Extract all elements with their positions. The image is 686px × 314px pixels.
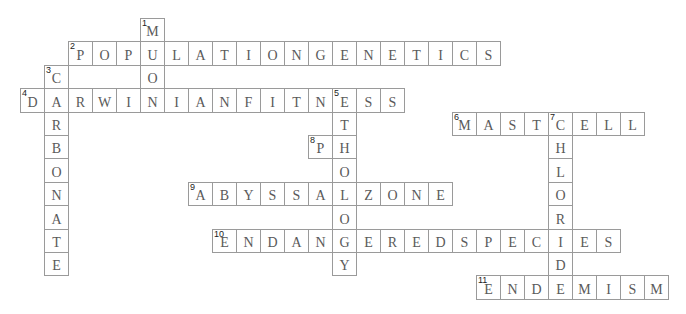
crossword-cell[interactable]: D bbox=[548, 252, 573, 276]
crossword-cell[interactable]: T bbox=[44, 229, 69, 253]
crossword-cell[interactable]: G bbox=[308, 41, 333, 66]
crossword-cell[interactable]: D bbox=[428, 229, 453, 253]
crossword-cell[interactable]: N bbox=[212, 88, 237, 113]
crossword-cell[interactable]: P bbox=[476, 229, 501, 253]
crossword-cell[interactable]: U bbox=[140, 41, 165, 66]
crossword-cell[interactable]: A bbox=[188, 88, 213, 113]
crossword-cell[interactable]: 10E bbox=[212, 229, 237, 253]
crossword-cell[interactable]: T bbox=[212, 41, 237, 66]
crossword-cell[interactable]: W bbox=[92, 88, 117, 113]
crossword-cell[interactable]: B bbox=[212, 182, 237, 206]
crossword-cell[interactable]: L bbox=[620, 112, 645, 136]
crossword-cell[interactable]: A bbox=[476, 112, 501, 136]
crossword-cell[interactable]: S bbox=[620, 275, 645, 300]
crossword-cell[interactable]: 2P bbox=[68, 41, 93, 66]
crossword-cell[interactable]: H bbox=[548, 135, 573, 159]
crossword-cell[interactable]: O bbox=[260, 41, 285, 66]
crossword-cell[interactable]: M bbox=[572, 275, 597, 300]
crossword-cell[interactable]: R bbox=[68, 88, 93, 113]
crossword-cell[interactable]: I bbox=[548, 229, 573, 253]
crossword-cell[interactable]: S bbox=[476, 41, 501, 66]
crossword-cell[interactable]: 6M bbox=[452, 112, 477, 136]
crossword-cell[interactable]: N bbox=[500, 275, 525, 300]
crossword-cell[interactable]: 3C bbox=[44, 65, 69, 89]
crossword-cell[interactable]: N bbox=[236, 229, 261, 253]
crossword-cell[interactable]: O bbox=[92, 41, 117, 66]
crossword-cell[interactable]: B bbox=[44, 135, 69, 159]
crossword-cell[interactable]: I bbox=[260, 88, 285, 113]
crossword-cell[interactable]: S bbox=[380, 88, 405, 113]
crossword-cell[interactable]: S bbox=[260, 182, 285, 206]
crossword-cell[interactable]: 7C bbox=[548, 112, 573, 136]
crossword-cell[interactable]: N bbox=[308, 229, 333, 253]
crossword-cell[interactable]: E bbox=[380, 41, 405, 66]
crossword-cell[interactable]: 9A bbox=[188, 182, 213, 206]
crossword-cell[interactable]: N bbox=[44, 182, 69, 206]
crossword-cell[interactable]: I bbox=[164, 88, 189, 113]
crossword-cell[interactable]: 4D bbox=[20, 88, 45, 113]
crossword-cell[interactable]: L bbox=[548, 158, 573, 183]
crossword-cell[interactable]: S bbox=[284, 182, 309, 206]
crossword-cell[interactable]: S bbox=[356, 88, 381, 113]
crossword-cell[interactable]: T bbox=[404, 41, 429, 66]
crossword-cell[interactable]: I bbox=[116, 88, 141, 113]
crossword-cell[interactable]: T bbox=[524, 112, 549, 136]
crossword-cell[interactable]: L bbox=[332, 182, 357, 206]
crossword-cell[interactable]: N bbox=[140, 88, 165, 113]
crossword-cell[interactable]: N bbox=[356, 41, 381, 66]
crossword-cell[interactable]: 5E bbox=[332, 88, 357, 113]
crossword-cell[interactable]: E bbox=[332, 41, 357, 66]
crossword-cell[interactable]: C bbox=[524, 229, 549, 253]
crossword-cell[interactable]: D bbox=[524, 275, 549, 300]
crossword-cell[interactable]: A bbox=[44, 88, 69, 113]
crossword-cell[interactable]: C bbox=[452, 41, 477, 66]
crossword-cell[interactable]: E bbox=[356, 229, 381, 253]
crossword-cell[interactable]: G bbox=[332, 229, 357, 253]
crossword-cell[interactable]: I bbox=[236, 41, 261, 66]
crossword-cell[interactable]: 8P bbox=[308, 135, 333, 159]
crossword-cell[interactable]: N bbox=[404, 182, 429, 206]
crossword-cell[interactable]: R bbox=[380, 229, 405, 253]
crossword-cell[interactable]: A bbox=[188, 41, 213, 66]
cell-letter: U bbox=[141, 49, 164, 63]
crossword-cell[interactable]: L bbox=[164, 41, 189, 66]
crossword-cell[interactable]: F bbox=[236, 88, 261, 113]
crossword-cell[interactable]: T bbox=[332, 112, 357, 136]
crossword-cell[interactable]: O bbox=[140, 65, 165, 89]
crossword-cell[interactable]: E bbox=[404, 229, 429, 253]
crossword-cell[interactable]: M bbox=[644, 275, 669, 300]
crossword-cell[interactable]: S bbox=[596, 229, 621, 253]
crossword-cell[interactable]: L bbox=[596, 112, 621, 136]
crossword-cell[interactable]: P bbox=[116, 41, 141, 66]
crossword-cell[interactable]: Z bbox=[356, 182, 381, 206]
crossword-cell[interactable]: A bbox=[308, 182, 333, 206]
crossword-cell[interactable]: Y bbox=[236, 182, 261, 206]
crossword-cell[interactable]: 11E bbox=[476, 275, 501, 300]
crossword-cell[interactable]: R bbox=[44, 112, 69, 136]
crossword-cell[interactable]: A bbox=[44, 205, 69, 230]
crossword-cell[interactable]: 1M bbox=[140, 18, 165, 42]
crossword-cell[interactable]: O bbox=[332, 205, 357, 230]
crossword-cell[interactable]: E bbox=[500, 229, 525, 253]
crossword-cell[interactable]: H bbox=[332, 135, 357, 159]
crossword-cell[interactable]: Y bbox=[332, 252, 357, 276]
crossword-cell[interactable]: O bbox=[380, 182, 405, 206]
crossword-cell[interactable]: I bbox=[596, 275, 621, 300]
crossword-cell[interactable]: O bbox=[548, 182, 573, 206]
crossword-cell[interactable]: I bbox=[428, 41, 453, 66]
crossword-cell[interactable]: E bbox=[572, 112, 597, 136]
crossword-cell[interactable]: N bbox=[284, 41, 309, 66]
crossword-cell[interactable]: E bbox=[572, 229, 597, 253]
crossword-cell[interactable]: E bbox=[428, 182, 453, 206]
crossword-cell[interactable]: T bbox=[284, 88, 309, 113]
crossword-cell[interactable]: D bbox=[260, 229, 285, 253]
crossword-cell[interactable]: N bbox=[308, 88, 333, 113]
crossword-cell[interactable]: O bbox=[44, 158, 69, 183]
crossword-cell[interactable]: R bbox=[548, 205, 573, 230]
crossword-cell[interactable]: E bbox=[44, 252, 69, 276]
crossword-cell[interactable]: S bbox=[452, 229, 477, 253]
crossword-cell[interactable]: S bbox=[500, 112, 525, 136]
crossword-cell[interactable]: E bbox=[548, 275, 573, 300]
crossword-cell[interactable]: O bbox=[332, 158, 357, 183]
crossword-cell[interactable]: A bbox=[284, 229, 309, 253]
